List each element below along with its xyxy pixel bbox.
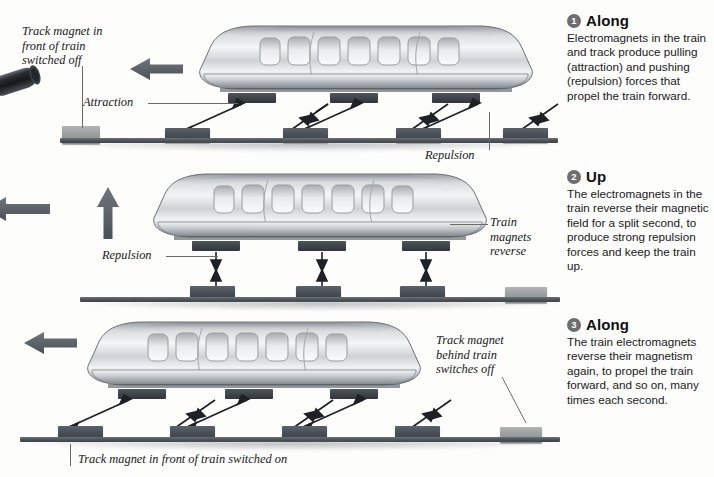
train-windows xyxy=(214,185,413,213)
magnet-cylinder-prop xyxy=(0,62,50,108)
note-3-body: The train electromagnets reverse their m… xyxy=(567,335,714,407)
note-2-body: The electromagnets in the train reverse … xyxy=(567,187,714,273)
step-badge-3: 3 xyxy=(567,318,581,332)
note-1-body: Electromagnets in the train and track pr… xyxy=(567,31,714,103)
leader-line-repulsion-1 xyxy=(489,112,490,150)
motion-arrow-up-panel2 xyxy=(95,185,121,241)
note-2-header: 2 Up xyxy=(567,168,714,185)
callout-repulsion-1: Repulsion xyxy=(425,148,475,163)
note-3: 3 Along The train electromagnets reverse… xyxy=(567,316,714,407)
maglev-train-panel3 xyxy=(84,320,424,392)
callout-attraction: Attraction xyxy=(83,95,133,110)
callout-track-magnet-front-on: Track magnet in front of train switched … xyxy=(78,452,287,467)
diagram-canvas: Track magnet in front of train switched … xyxy=(0,0,714,477)
train-windows xyxy=(148,333,347,361)
leader-line-train-magnets xyxy=(450,224,488,225)
callout-track-magnet-front-off: Track magnet in front of train switched … xyxy=(22,24,142,68)
maglev-train-panel1 xyxy=(196,24,536,96)
maglev-train-panel2 xyxy=(150,172,490,244)
leader-line-front-on xyxy=(70,444,71,466)
rail-shadow xyxy=(20,442,562,451)
callout-repulsion-2: Repulsion xyxy=(102,248,152,263)
repulsion-arrows-panel2 xyxy=(185,250,435,290)
note-2: 2 Up The electromagnets in the train rev… xyxy=(567,168,714,273)
callout-train-magnets-reverse: Train magnets reverse xyxy=(490,215,550,259)
motion-arrow-left-panel3 xyxy=(22,330,80,356)
note-3-header: 3 Along xyxy=(567,316,714,333)
note-1-header: 1 Along xyxy=(567,12,714,29)
leader-line-attraction xyxy=(148,103,238,104)
callout-track-magnet-behind-off: Track magnet behind train switches off xyxy=(436,333,546,377)
leader-line-behind-off xyxy=(500,375,540,427)
rail-shadow xyxy=(60,143,560,152)
motion-arrow-left-edge-panel2 xyxy=(0,195,54,223)
note-3-title: Along xyxy=(586,316,629,333)
note-2-title: Up xyxy=(586,168,606,185)
note-1-title: Along xyxy=(586,12,629,29)
note-1: 1 Along Electromagnets in the train and … xyxy=(567,12,714,103)
train-windows xyxy=(260,37,459,65)
step-badge-1: 1 xyxy=(567,14,581,28)
panel-up xyxy=(0,160,567,308)
explanation-column: 1 Along Electromagnets in the train and … xyxy=(567,0,714,477)
leader-line-repulsion-2 xyxy=(166,256,218,257)
step-badge-2: 2 xyxy=(567,170,581,184)
